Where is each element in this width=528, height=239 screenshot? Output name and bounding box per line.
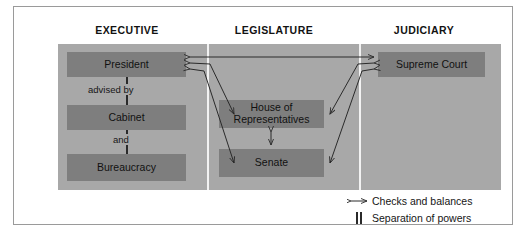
branch-header-legislature: LEGISLATURE [214, 24, 334, 36]
double-headed-arrow-icon [346, 196, 372, 206]
legend-row-checks-and-balances: Checks and balances [346, 192, 516, 209]
arrow-president-senate [190, 69, 234, 163]
diagram-frame: EXECUTIVE LEGISLATURE JUDICIARY Presiden… [13, 6, 513, 225]
branch-header-judiciary: JUDICIARY [364, 24, 484, 36]
arrow-supremecourt-senate [330, 69, 374, 163]
checks-and-balances-arrows [58, 44, 501, 190]
diagram-panel: President advised by Cabinet and Bureauc… [58, 44, 501, 190]
arrow-president-house [190, 63, 234, 114]
arrow-supremecourt-house [330, 63, 374, 114]
branch-header-executive: EXECUTIVE [67, 24, 187, 36]
legend-label-checks-and-balances: Checks and balances [372, 195, 472, 207]
legend-label-separation-of-powers: Separation of powers [372, 212, 471, 224]
double-vertical-bar-icon [346, 212, 372, 224]
legend: Checks and balances Separation of powers [346, 192, 516, 226]
legend-row-separation-of-powers: Separation of powers [346, 209, 516, 226]
